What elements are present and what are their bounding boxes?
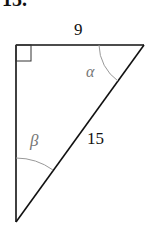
- side-label-top: 9: [74, 20, 83, 40]
- angle-label-alpha: α: [86, 63, 94, 81]
- right-angle-marker: [16, 45, 31, 61]
- beta-arc: [16, 158, 53, 170]
- angle-label-beta: β: [30, 131, 38, 151]
- alpha-arc: [99, 45, 118, 81]
- side-label-hypotenuse: 15: [87, 129, 104, 149]
